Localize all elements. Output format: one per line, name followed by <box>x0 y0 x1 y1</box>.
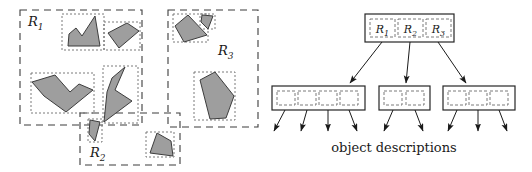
small-triangle-8 <box>201 15 213 29</box>
leaf-to-object-arrow-2 <box>301 110 307 131</box>
leaf-entry-box-leaf-R2-1[interactable] <box>384 91 402 105</box>
root-to-leaf-arrows <box>350 42 466 83</box>
leaf-to-object-arrow-6 <box>415 110 423 131</box>
arrow-polygon-1 <box>68 16 100 46</box>
quad-polygon-6 <box>150 133 173 156</box>
object-descriptions-caption: object descriptions <box>331 140 456 155</box>
zigzag-polygon-4 <box>104 67 132 122</box>
rtree-figure: R1R2R3 R1R2R3 object descriptions <box>0 0 532 172</box>
leaf-node-box-leaf-R2 <box>379 86 430 110</box>
region-label-R1: R1 <box>27 14 44 32</box>
leaf-to-object-arrows <box>274 110 507 131</box>
leaf-entry-box-leaf-R1-2[interactable] <box>298 91 316 105</box>
root-to-leaf-arrow-1 <box>350 42 382 83</box>
leaf-to-object-arrow-7 <box>448 110 457 131</box>
region-label-subscript: 3 <box>228 51 234 61</box>
leaf-to-object-arrow-4 <box>349 110 357 131</box>
rtree-leaf-nodes <box>272 86 515 110</box>
leaf-to-object-arrow-5 <box>384 110 393 131</box>
region-label-R2: R2 <box>89 145 106 163</box>
root-entry-subscript: 2 <box>411 29 417 38</box>
region-label-R3: R3 <box>217 43 234 61</box>
leaf-entry-box-leaf-R1-4[interactable] <box>340 91 358 105</box>
rtree-svg: R1R2R3 object descriptions <box>266 0 532 172</box>
leaf-to-object-arrow-1 <box>274 110 285 131</box>
region-label-subscript: 1 <box>38 22 44 32</box>
leaf-entry-box-leaf-R3-1[interactable] <box>448 91 466 105</box>
leaf-node-box-leaf-R3 <box>443 86 515 110</box>
leaf-entry-box-leaf-R1-3[interactable] <box>319 91 337 105</box>
leaf-entry-box-leaf-R2-2[interactable] <box>406 91 424 105</box>
leaf-entry-box-leaf-R1-1[interactable] <box>277 91 295 105</box>
small-triangle-5 <box>89 120 100 141</box>
rtree-root-node: R1R2R3 <box>365 14 454 42</box>
root-to-leaf-arrow-3 <box>438 42 466 83</box>
root-to-leaf-arrow-2 <box>406 42 410 83</box>
root-entry-subscript: 3 <box>440 29 445 38</box>
spatial-regions-svg: R1R2R3 <box>0 0 266 172</box>
leaf-entry-box-leaf-R3-3[interactable] <box>490 91 508 105</box>
pentagon-polygon-9 <box>200 72 234 119</box>
root-entry-label-2: R2 <box>403 23 417 38</box>
rtree-structure-panel: R1R2R3 object descriptions <box>266 0 532 172</box>
region-label-subscript: 2 <box>99 153 106 163</box>
root-entry-label-3: R3 <box>431 23 445 38</box>
leaf-entry-box-leaf-R3-2[interactable] <box>469 91 487 105</box>
leaf-to-object-arrow-9 <box>499 110 507 131</box>
root-entry-subscript: 1 <box>384 29 389 38</box>
spatial-regions-panel: R1R2R3 <box>0 0 266 172</box>
wide-arrow-polygon-3 <box>32 75 93 112</box>
leaf-node-box-leaf-R1 <box>272 86 365 110</box>
quad-polygon-2 <box>108 23 139 48</box>
root-entry-label-1: R1 <box>375 23 389 38</box>
